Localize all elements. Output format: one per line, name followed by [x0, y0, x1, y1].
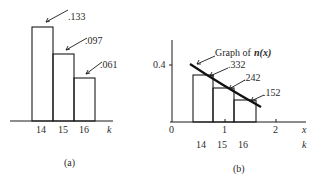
curve-n-of-x [190, 64, 261, 107]
panel-a: .133 .097 .061 14 15 16 k (a) [10, 10, 118, 169]
bar-a-16 [74, 78, 95, 121]
x-tick-label-2: 2 [273, 124, 278, 135]
caption-a: (a) [64, 157, 75, 169]
leader-b-332 [210, 68, 228, 76]
x-label-b: x [301, 124, 307, 135]
k-tick-a-15: 15 [58, 124, 68, 135]
curve-func: n(x) [254, 47, 271, 59]
leader-a-133 [46, 10, 68, 22]
label-b-242: .242 [243, 72, 261, 83]
bar-a-14 [32, 27, 53, 121]
leader-a-097 [66, 38, 87, 50]
k-label-b: k [302, 139, 307, 150]
bar-b-15 [213, 88, 234, 122]
y-tick-label-04: 0.4 [153, 59, 166, 70]
x-tick-label-0: 0 [169, 124, 174, 135]
leader-graph-of [197, 56, 215, 64]
bar-b-14 [193, 75, 213, 122]
k-tick-a-16: 16 [79, 124, 89, 135]
k-label-a: k [107, 124, 112, 135]
k-tick-b-14: 14 [196, 139, 206, 150]
label-a-097: .097 [85, 35, 103, 46]
x-tick-label-1: 1 [222, 124, 227, 135]
panel-b: 0.4 Graph of n(x) .332 .242 .152 0 1 2 x… [153, 40, 307, 175]
caption-b: (b) [233, 163, 245, 175]
bar-a-15 [53, 54, 74, 121]
label-b-332: .332 [228, 59, 246, 70]
label-b-152: .152 [263, 87, 281, 98]
k-tick-b-16: 16 [238, 139, 248, 150]
label-a-133: .133 [68, 11, 86, 22]
k-tick-a-14: 14 [36, 124, 46, 135]
figure: .133 .097 .061 14 15 16 k (a) 0.4 Graph … [0, 0, 321, 185]
curve-label: Graph of [215, 47, 251, 58]
k-tick-b-15: 15 [217, 139, 227, 150]
label-a-061: .061 [100, 59, 118, 70]
